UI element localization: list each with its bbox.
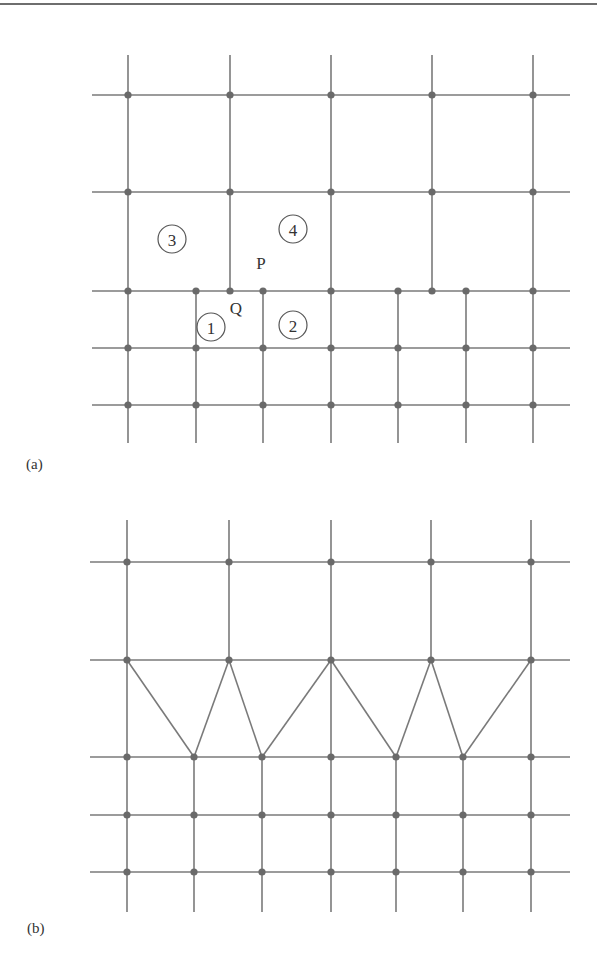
panel-a-node bbox=[259, 287, 266, 294]
panel-a-point-label-p: P bbox=[256, 254, 265, 273]
panel-a-node bbox=[259, 344, 266, 351]
cell-number-text: 3 bbox=[168, 231, 177, 250]
panel-b-node bbox=[392, 811, 399, 818]
panel-b-diagonal-edge bbox=[127, 660, 194, 757]
panel-a-node bbox=[428, 91, 435, 98]
panel-b-node bbox=[392, 868, 399, 875]
panel-b-diagonal-edge bbox=[262, 660, 331, 757]
panel-a-node bbox=[529, 344, 536, 351]
panel-b-node bbox=[327, 753, 334, 760]
panel-a-node bbox=[226, 188, 233, 195]
panel-a-node bbox=[428, 287, 435, 294]
panel-b-node bbox=[459, 868, 466, 875]
panel-a-node bbox=[529, 91, 536, 98]
panel-a-cell-label-1: 1 bbox=[197, 313, 225, 341]
panel-b-diagonal-edge bbox=[229, 660, 262, 757]
panel-a-node bbox=[462, 287, 469, 294]
panel-a-node bbox=[462, 401, 469, 408]
panel-b-node bbox=[123, 868, 130, 875]
panel-b-node bbox=[190, 753, 197, 760]
panel-a-node bbox=[259, 401, 266, 408]
panel-b-node bbox=[327, 558, 334, 565]
panel-a-node bbox=[529, 401, 536, 408]
panel-a-node bbox=[192, 287, 199, 294]
panel-a-node bbox=[394, 401, 401, 408]
panel-b-node bbox=[225, 656, 232, 663]
panel-a-node bbox=[192, 401, 199, 408]
panel-a-node bbox=[124, 91, 131, 98]
panel-b-node bbox=[392, 753, 399, 760]
panel-a-node bbox=[327, 91, 334, 98]
panel-b-label: (b) bbox=[27, 920, 45, 937]
panel-a-node bbox=[124, 401, 131, 408]
panel-b-diagonal-edge bbox=[431, 660, 463, 757]
panel-b-node bbox=[225, 558, 232, 565]
panel-b-node bbox=[123, 811, 130, 818]
panel-b-node bbox=[190, 811, 197, 818]
cell-number-text: 2 bbox=[289, 317, 298, 336]
panel-a-node bbox=[394, 287, 401, 294]
panel-a-node bbox=[327, 344, 334, 351]
panel-b-node bbox=[527, 656, 534, 663]
panel-a-node bbox=[192, 344, 199, 351]
cell-number-text: 4 bbox=[289, 221, 298, 240]
panel-a-node bbox=[226, 287, 233, 294]
panel-b-node bbox=[527, 868, 534, 875]
panel-a-node bbox=[529, 287, 536, 294]
panel-a-node bbox=[327, 188, 334, 195]
panel-b-diagonal-edge bbox=[463, 660, 531, 757]
panel-a-node bbox=[124, 188, 131, 195]
panel-a-node bbox=[124, 287, 131, 294]
panel-b-node bbox=[123, 753, 130, 760]
panel-b-node bbox=[258, 811, 265, 818]
panel-a-cell-label-2: 2 bbox=[279, 311, 307, 339]
panel-a-node bbox=[327, 287, 334, 294]
panel-b-node bbox=[427, 558, 434, 565]
panel-a-point-label-q: Q bbox=[230, 299, 242, 318]
panel-a-label: (a) bbox=[26, 456, 43, 473]
panel-a-cell-label-3: 3 bbox=[158, 225, 186, 253]
panel-b-node bbox=[527, 753, 534, 760]
panel-a-node bbox=[327, 401, 334, 408]
cell-number-text: 1 bbox=[207, 319, 216, 338]
panel-b-diagonal-edge bbox=[194, 660, 229, 757]
panel-b-node bbox=[258, 753, 265, 760]
panel-a-node bbox=[529, 188, 536, 195]
panel-b-mesh bbox=[90, 520, 570, 912]
panel-b-node bbox=[190, 868, 197, 875]
panel-b-diagonal-edge bbox=[396, 660, 431, 757]
panel-b-node bbox=[327, 811, 334, 818]
diagram-canvas: 1234PQ bbox=[0, 0, 597, 975]
panel-b-node bbox=[527, 558, 534, 565]
panel-b-node bbox=[258, 868, 265, 875]
panel-a-cell-label-4: 4 bbox=[279, 215, 307, 243]
panel-b-node bbox=[327, 656, 334, 663]
panel-a-mesh: 1234PQ bbox=[92, 55, 570, 443]
panel-b-node bbox=[459, 811, 466, 818]
panel-a-node bbox=[428, 188, 435, 195]
panel-b-node bbox=[459, 753, 466, 760]
panel-b-node bbox=[123, 558, 130, 565]
panel-a-node bbox=[124, 344, 131, 351]
panel-a-node bbox=[394, 344, 401, 351]
panel-b-node bbox=[527, 811, 534, 818]
panel-b-node bbox=[427, 656, 434, 663]
panel-a-node bbox=[226, 91, 233, 98]
panel-b-node bbox=[327, 868, 334, 875]
panel-b-node bbox=[123, 656, 130, 663]
panel-b-diagonal-edge bbox=[331, 660, 396, 757]
panel-a-node bbox=[462, 344, 469, 351]
